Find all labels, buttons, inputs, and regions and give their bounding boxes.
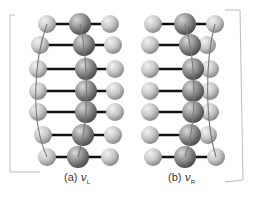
caption-a-subscript: L: [87, 179, 90, 185]
caption-a-label: (a): [64, 171, 77, 183]
atom-small: [106, 103, 124, 121]
caption-a: (a) vL: [64, 171, 90, 185]
panel-a-structure: [10, 13, 124, 172]
atom-large: [182, 80, 204, 102]
bracket-line: [225, 10, 243, 182]
atom-small: [141, 60, 159, 78]
atom-small: [34, 126, 52, 144]
atom-small: [104, 36, 122, 54]
atom-small: [101, 15, 119, 33]
caption-b: (b) vR: [168, 171, 195, 185]
atom-small: [144, 15, 162, 33]
atom-small: [141, 126, 159, 144]
caption-b-label: (b): [168, 171, 181, 183]
atom-small: [141, 103, 159, 121]
atom-small: [144, 148, 162, 166]
atom-small: [199, 126, 217, 144]
atom-large: [179, 124, 201, 146]
atom-small: [106, 82, 124, 100]
atom-small: [106, 60, 124, 78]
caption-b-subscript: R: [191, 179, 195, 185]
atom-small: [101, 148, 119, 166]
atom-small: [29, 82, 47, 100]
atom-small: [141, 82, 159, 100]
atom-small: [104, 126, 122, 144]
panel-b-structure: [141, 10, 243, 182]
atom-small: [141, 36, 159, 54]
atom-small: [29, 103, 47, 121]
figure-canvas: [0, 0, 254, 198]
